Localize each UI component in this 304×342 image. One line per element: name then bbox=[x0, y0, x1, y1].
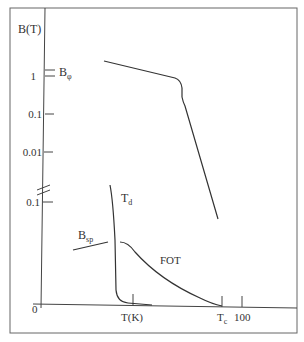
ytick-label-0.1-lower: 0.1 bbox=[26, 196, 40, 208]
frame bbox=[10, 8, 297, 333]
y-axis bbox=[41, 8, 45, 308]
origin-label: 0 bbox=[32, 303, 38, 315]
ytick-label-1: 1 bbox=[31, 70, 37, 82]
tc-label: Tc bbox=[217, 311, 228, 326]
fot-curve bbox=[120, 242, 222, 306]
fot-label: FOT bbox=[160, 254, 181, 266]
bphi-label: Bφ bbox=[59, 65, 72, 81]
axis-break-2 bbox=[37, 190, 50, 195]
y-axis-label: B(T) bbox=[18, 22, 41, 36]
ytick-label-0.01: 0.01 bbox=[23, 146, 42, 158]
td-label: Td bbox=[121, 191, 132, 207]
axis-break-1 bbox=[37, 185, 50, 190]
ytick-label-0.1: 0.1 bbox=[28, 108, 42, 120]
bsp-label: Bsp bbox=[78, 228, 93, 244]
x-axis-label: T(K) bbox=[121, 311, 143, 324]
x-axis bbox=[33, 304, 297, 308]
phase-diagram: B(T) Bφ 1 0.1 0.01 0.1 Td Bsp FOT 0 T(K)… bbox=[0, 0, 304, 342]
hundred-label: 100 bbox=[234, 311, 251, 323]
